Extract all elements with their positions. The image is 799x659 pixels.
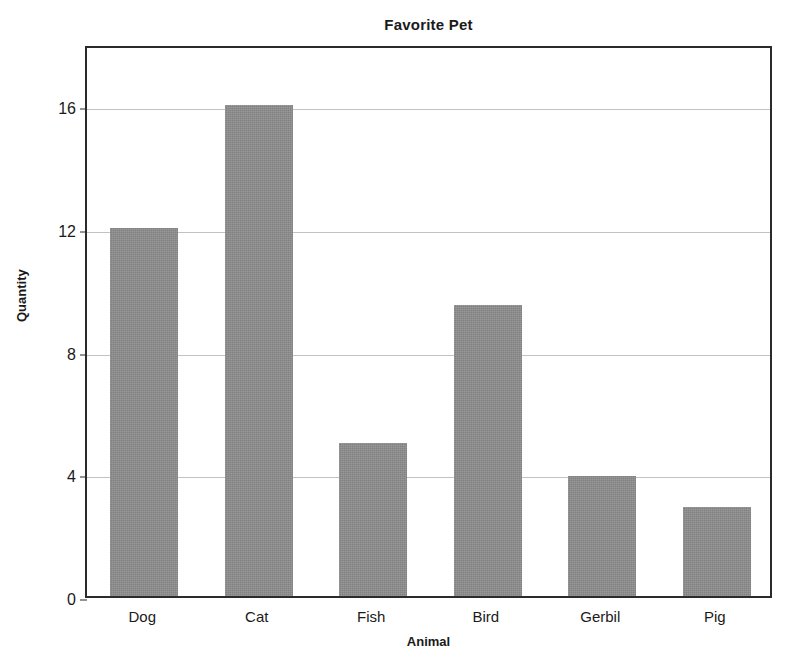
x-tick-label-pig: Pig	[704, 608, 726, 625]
plot-area: 0481216	[85, 46, 772, 598]
x-tick-label-fish: Fish	[357, 608, 385, 625]
y-tick-label: 8	[67, 346, 87, 364]
bar-fish[interactable]	[339, 443, 407, 596]
gridline	[87, 355, 770, 356]
gridline	[87, 477, 770, 478]
chart-title: Favorite Pet	[85, 16, 772, 33]
x-tick-label-cat: Cat	[245, 608, 268, 625]
bar-chart: Favorite Pet Quantity 0481216 DogCatFish…	[0, 0, 799, 659]
y-tick-label: 12	[58, 223, 87, 241]
x-tick-label-bird: Bird	[472, 608, 499, 625]
bar-cat[interactable]	[225, 105, 293, 596]
bar-bird[interactable]	[454, 305, 522, 596]
y-tick-label: 16	[58, 100, 87, 118]
bar-pig[interactable]	[683, 507, 751, 596]
y-tick-label: 0	[67, 591, 87, 609]
x-tick-label-gerbil: Gerbil	[580, 608, 620, 625]
x-axis-title: Animal	[85, 634, 772, 649]
x-tick-label-dog: Dog	[128, 608, 156, 625]
gridline	[87, 232, 770, 233]
y-axis-title: Quantity	[14, 269, 29, 322]
gridline	[87, 109, 770, 110]
plot-inner: 0481216	[87, 48, 770, 596]
y-tick-label: 4	[67, 468, 87, 486]
bar-gerbil[interactable]	[568, 476, 636, 596]
bar-dog[interactable]	[110, 228, 178, 596]
